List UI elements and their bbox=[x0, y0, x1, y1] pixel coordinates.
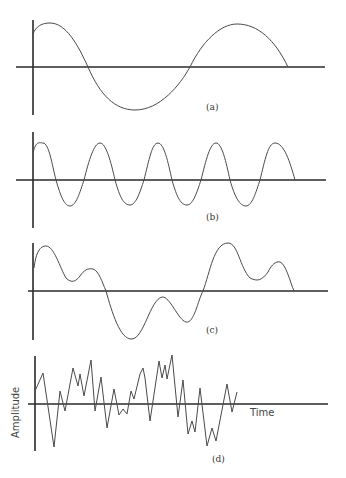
panel-b: (b) bbox=[16, 132, 326, 228]
x-axis-label: Time bbox=[249, 407, 274, 418]
panel-d: Time Amplitude (d) bbox=[10, 355, 328, 464]
panel-label-c: (c) bbox=[206, 325, 218, 335]
panel-a: (a) bbox=[16, 20, 325, 115]
sine-wave-high-frequency bbox=[33, 143, 295, 206]
panel-label-a: (a) bbox=[206, 102, 218, 112]
waveform-figure: (a) (b) (c) Time Amplitude (d) bbox=[0, 0, 346, 478]
random-noise-wave bbox=[35, 355, 237, 447]
panel-c: (c) bbox=[28, 243, 328, 340]
panel-label-b: (b) bbox=[206, 212, 219, 222]
y-axis-label: Amplitude bbox=[10, 387, 21, 438]
panel-label-d: (d) bbox=[212, 454, 225, 464]
